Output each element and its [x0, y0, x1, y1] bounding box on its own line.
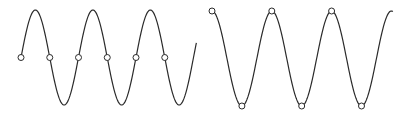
left-sample-marker-1 — [18, 55, 24, 61]
left-sample-marker-4 — [104, 55, 110, 61]
waveform-figure — [0, 0, 410, 117]
left-sample-marker-3 — [76, 55, 82, 61]
left-sample-marker-5 — [133, 55, 139, 61]
right-sample-marker-1 — [209, 8, 215, 14]
left-sample-marker-6 — [162, 55, 168, 61]
right-wave-panel — [209, 8, 393, 109]
right-sample-marker-2 — [239, 103, 245, 109]
left-sample-marker-2 — [47, 55, 53, 61]
right-sample-marker-3 — [269, 8, 275, 14]
left-wave-panel — [18, 10, 196, 105]
right-sample-marker-5 — [329, 8, 335, 14]
right-sample-marker-4 — [299, 103, 305, 109]
right-wave-line — [212, 11, 393, 106]
right-sample-marker-6 — [359, 103, 365, 109]
